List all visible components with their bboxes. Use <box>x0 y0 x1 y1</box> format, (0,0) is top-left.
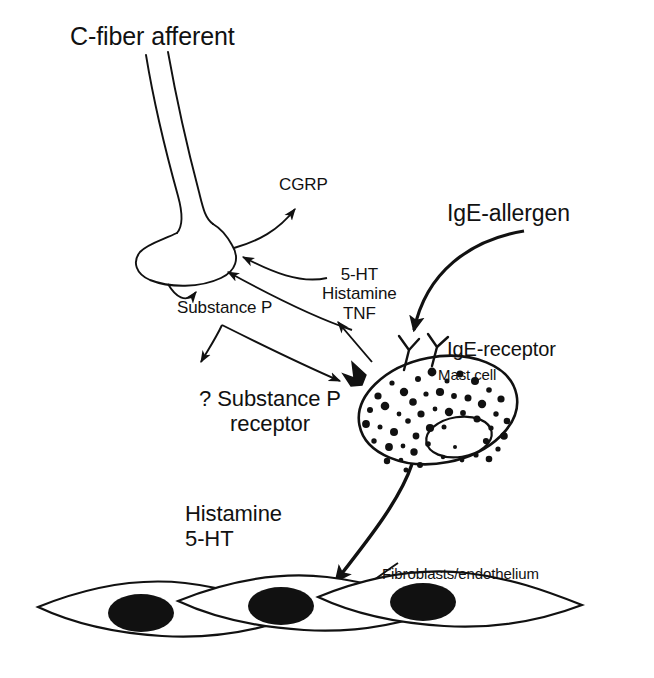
label-fibroblasts-endothelium: Fibroblasts/endothelium <box>382 565 539 582</box>
label-substance-p: Substance P <box>177 298 272 317</box>
label-ige-receptor: IgE-receptor <box>447 338 556 361</box>
fibroblast-nucleus <box>108 594 174 632</box>
arrow-mastcell-to-mediators <box>338 322 372 362</box>
label-mast-cell: Mast cell <box>438 366 496 383</box>
label-substance-p-receptor: ? Substance P receptor <box>170 386 370 436</box>
substance-p-receptor-site <box>343 362 366 386</box>
label-c-fiber-afferent: C-fiber afferent <box>70 22 235 51</box>
arrow-mastcell-to-fibroblasts <box>336 464 412 581</box>
arrow-mediators-to-terminal <box>243 257 327 280</box>
arrow-substance-p-branch <box>201 325 222 362</box>
label-cgrp: CGRP <box>279 175 328 194</box>
arrow-terminal-to-cgrp <box>234 209 295 248</box>
fibroblast-nucleus <box>248 587 314 625</box>
label-histamine-5ht-release: Histamine 5-HT <box>185 501 282 551</box>
arrow-substance-p-to-receptor <box>222 325 340 381</box>
diagram-canvas: C-fiber afferent CGRP 5-HT Histamine TNF… <box>0 0 654 678</box>
fibroblast-nucleus <box>390 583 456 621</box>
c-fiber-nerve-terminal <box>136 52 236 286</box>
label-mediators: 5-HT Histamine TNF <box>322 265 397 323</box>
label-ige-allergen: IgE-allergen <box>447 200 570 226</box>
arrow-ige-allergen-to-receptor <box>414 231 524 330</box>
